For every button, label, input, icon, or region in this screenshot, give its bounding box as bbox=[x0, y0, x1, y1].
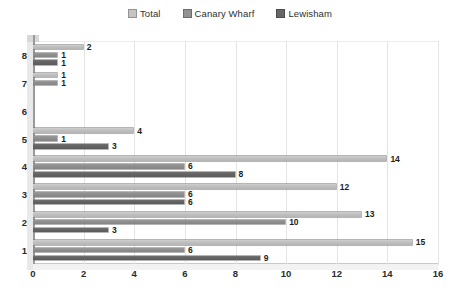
bar-rect bbox=[33, 72, 58, 79]
bar-rows: 2111141314681266131031569 bbox=[33, 41, 438, 264]
bar-group-5: 413 bbox=[33, 125, 438, 153]
bar-value-label: 1 bbox=[61, 134, 66, 144]
x-axis-tick-12: 12 bbox=[331, 268, 342, 279]
bar-rect bbox=[33, 211, 362, 218]
bar-value-label: 15 bbox=[416, 237, 425, 247]
bar-value-label: 1 bbox=[61, 78, 66, 88]
bar-rect bbox=[33, 191, 185, 198]
gridline bbox=[438, 41, 439, 264]
bar-rect bbox=[33, 255, 261, 262]
bar-rect bbox=[33, 227, 109, 234]
bar-rect bbox=[33, 247, 185, 254]
bar-value-label: 4 bbox=[137, 126, 142, 136]
y-axis-tick-8: 8 bbox=[0, 49, 27, 60]
bar-canary-wharf-7[interactable]: 1 bbox=[33, 80, 438, 87]
x-axis-tick-2: 2 bbox=[81, 268, 86, 279]
bar-canary-wharf-2[interactable]: 10 bbox=[33, 219, 438, 226]
x-axis-tick-8: 8 bbox=[233, 268, 238, 279]
bar-total-7[interactable]: 1 bbox=[33, 72, 438, 79]
bar-group-6 bbox=[33, 97, 438, 125]
bar-group-3: 1266 bbox=[33, 180, 438, 208]
bar-value-label: 9 bbox=[264, 253, 269, 263]
x-axis-tick-4: 4 bbox=[132, 268, 137, 279]
legend-item-lewisham[interactable]: Lewisham bbox=[276, 8, 332, 19]
legend-item-label: Total bbox=[140, 8, 161, 19]
bar-lewisham-8[interactable]: 1 bbox=[33, 59, 438, 66]
bar-rect bbox=[33, 155, 387, 162]
y-axis-tick-6: 6 bbox=[0, 105, 27, 116]
legend-swatch-icon bbox=[183, 9, 192, 18]
bar-group-7: 11 bbox=[33, 69, 438, 97]
bar-value-label: 12 bbox=[340, 182, 349, 192]
x-axis-labels: 0246810121416 bbox=[33, 268, 438, 284]
bar-rect bbox=[33, 239, 413, 246]
bar-canary-wharf-5[interactable]: 1 bbox=[33, 135, 438, 142]
x-axis-tick-0: 0 bbox=[30, 268, 35, 279]
y-axis-tick-2: 2 bbox=[0, 217, 27, 228]
bar-total-4[interactable]: 14 bbox=[33, 155, 438, 162]
bar-rect bbox=[33, 44, 84, 51]
bar-total-5[interactable]: 4 bbox=[33, 127, 438, 134]
legend-swatch-icon bbox=[128, 9, 137, 18]
bar-value-label: 3 bbox=[112, 225, 117, 235]
x-axis-tick-6: 6 bbox=[182, 268, 187, 279]
bar-canary-wharf-8[interactable]: 1 bbox=[33, 52, 438, 59]
bar-chart: TotalCanary WharfLewisham 87654321 21111… bbox=[0, 0, 460, 296]
bar-value-label: 13 bbox=[365, 209, 374, 219]
x-axis-tick-16: 16 bbox=[433, 268, 444, 279]
bar-group-4: 1468 bbox=[33, 153, 438, 181]
y-axis-tick-1: 1 bbox=[0, 245, 27, 256]
bar-rect bbox=[33, 183, 337, 190]
bar-value-label: 6 bbox=[188, 245, 193, 255]
y-axis-labels: 87654321 bbox=[0, 41, 27, 264]
bar-rect bbox=[33, 59, 58, 66]
y-axis-tick-4: 4 bbox=[0, 161, 27, 172]
bar-rect bbox=[33, 52, 58, 59]
bar-lewisham-3[interactable]: 6 bbox=[33, 199, 438, 206]
bar-rect bbox=[33, 199, 185, 206]
bar-total-8[interactable]: 2 bbox=[33, 44, 438, 51]
y-axis-tick-7: 7 bbox=[0, 77, 27, 88]
bar-lewisham-2[interactable]: 3 bbox=[33, 227, 438, 234]
bar-rect bbox=[33, 127, 134, 134]
bar-rect bbox=[33, 219, 286, 226]
bar-total-1[interactable]: 15 bbox=[33, 239, 438, 246]
bar-lewisham-7[interactable] bbox=[33, 87, 438, 94]
bar-lewisham-5[interactable]: 3 bbox=[33, 143, 438, 150]
bar-rect bbox=[33, 171, 236, 178]
y-axis-tick-3: 3 bbox=[0, 189, 27, 200]
x-axis-tick-14: 14 bbox=[382, 268, 393, 279]
bar-value-label: 6 bbox=[188, 197, 193, 207]
bar-lewisham-4[interactable]: 8 bbox=[33, 171, 438, 178]
bar-rect bbox=[33, 80, 58, 87]
bar-rect bbox=[33, 143, 109, 150]
bar-canary-wharf-6[interactable] bbox=[33, 107, 438, 114]
chart-legend: TotalCanary WharfLewisham bbox=[0, 8, 460, 19]
bar-lewisham-6[interactable] bbox=[33, 115, 438, 122]
bar-value-label: 6 bbox=[188, 161, 193, 171]
bar-total-3[interactable]: 12 bbox=[33, 183, 438, 190]
bar-group-1: 1569 bbox=[33, 236, 438, 264]
bar-lewisham-1[interactable]: 9 bbox=[33, 255, 438, 262]
bar-total-2[interactable]: 13 bbox=[33, 211, 438, 218]
bar-rect bbox=[33, 163, 185, 170]
bar-value-label: 2 bbox=[87, 42, 92, 52]
bar-canary-wharf-3[interactable]: 6 bbox=[33, 191, 438, 198]
bar-canary-wharf-1[interactable]: 6 bbox=[33, 247, 438, 254]
y-axis-tick-5: 5 bbox=[0, 133, 27, 144]
bar-total-6[interactable] bbox=[33, 100, 438, 107]
bar-value-label: 3 bbox=[112, 141, 117, 151]
plot-area: 2111141314681266131031569 bbox=[33, 41, 438, 264]
bar-value-label: 1 bbox=[61, 58, 66, 68]
bar-group-8: 211 bbox=[33, 41, 438, 69]
bar-canary-wharf-4[interactable]: 6 bbox=[33, 163, 438, 170]
legend-item-label: Canary Wharf bbox=[195, 8, 255, 19]
bar-value-label: 10 bbox=[289, 217, 298, 227]
bar-group-2: 13103 bbox=[33, 208, 438, 236]
bar-rect bbox=[33, 135, 58, 142]
legend-item-canary-wharf[interactable]: Canary Wharf bbox=[183, 8, 255, 19]
legend-item-total[interactable]: Total bbox=[128, 8, 161, 19]
legend-swatch-icon bbox=[276, 9, 285, 18]
legend-item-label: Lewisham bbox=[288, 8, 332, 19]
x-axis-tick-10: 10 bbox=[281, 268, 292, 279]
